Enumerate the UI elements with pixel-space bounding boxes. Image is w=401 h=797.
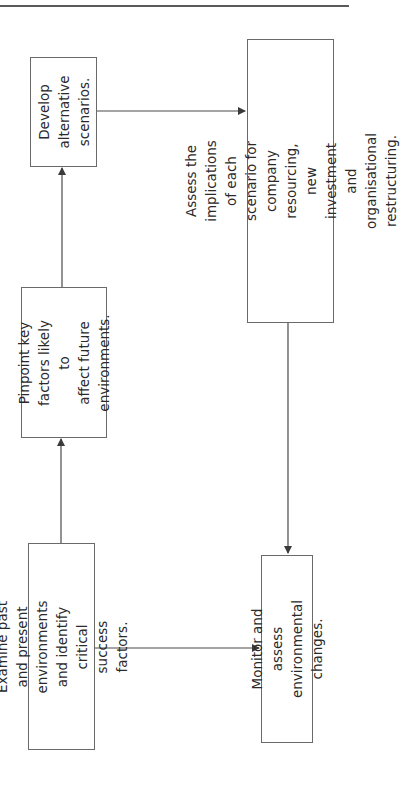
node-examine-environments: Examine past and present environments an… bbox=[28, 543, 95, 750]
node-assess-text: Assess the implications of each scenario… bbox=[181, 133, 401, 229]
node-monitor-text: Monitor and assess environmental changes… bbox=[247, 600, 327, 698]
node-develop-scenarios: Develop alternative scenarios. bbox=[30, 57, 97, 167]
node-pinpoint-factors: Pinpoint key factors likely to affect fu… bbox=[21, 287, 107, 438]
node-examine-text: Examine past and present environments an… bbox=[0, 600, 132, 693]
node-monitor-changes: Monitor and assess environmental changes… bbox=[261, 555, 313, 743]
node-develop-text: Develop alternative scenarios. bbox=[34, 75, 94, 148]
node-assess-implications: Assess the implications of each scenario… bbox=[247, 39, 334, 323]
node-pinpoint-text: Pinpoint key factors likely to affect fu… bbox=[14, 314, 114, 411]
